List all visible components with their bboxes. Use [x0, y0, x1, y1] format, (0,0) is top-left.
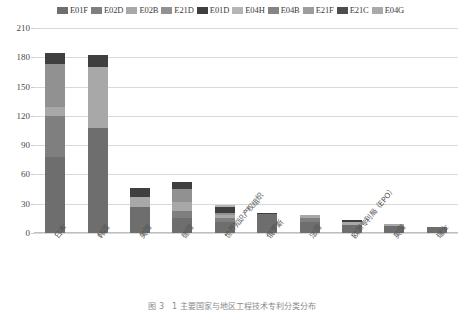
- legend-item-e01f[interactable]: E01F: [57, 6, 88, 15]
- legend-swatch-icon: [372, 7, 383, 14]
- bar-slot: [331, 28, 373, 233]
- x-axis-labels: 日本韩国美国德国世界知识产权组织俄罗斯法国欧洲专利局（EPO）英国瑞士: [34, 233, 458, 295]
- bar-slot: [76, 28, 118, 233]
- y-axis-tick-label: 60: [21, 169, 30, 179]
- legend-label: E01D: [210, 6, 229, 15]
- legend-swatch-icon: [91, 7, 102, 14]
- x-axis-label-slot: 法国: [288, 233, 330, 295]
- legend-swatch-icon: [232, 7, 243, 14]
- x-axis-label-slot: 韩国: [76, 233, 118, 295]
- legend-label: E01F: [70, 6, 88, 15]
- y-axis-tick-label: 30: [21, 199, 30, 209]
- chart-legend: E01FE02DE02BE21DE01DE04HE04BE21FE21CE04G: [0, 6, 464, 15]
- x-axis-label-slot: 日本: [34, 233, 76, 295]
- bar-segment-e02b[interactable]: [130, 197, 150, 207]
- bar-segment-e02d[interactable]: [172, 211, 192, 219]
- bar-stack[interactable]: [88, 55, 108, 233]
- bar-segment-e02b[interactable]: [172, 202, 192, 211]
- bar-segment-e01d[interactable]: [130, 188, 150, 197]
- legend-item-e04g[interactable]: E04G: [372, 6, 404, 15]
- x-axis-label-slot: 俄罗斯: [246, 233, 288, 295]
- bar-segment-e21d[interactable]: [172, 189, 192, 202]
- plot-area: 0306090120150180210: [34, 28, 458, 233]
- bar-slot: [161, 28, 203, 233]
- legend-label: E04B: [281, 6, 300, 15]
- legend-swatch-icon: [197, 7, 208, 14]
- legend-item-e04b[interactable]: E04B: [268, 6, 300, 15]
- bar-segment-e01f[interactable]: [45, 157, 65, 233]
- x-axis-label-slot: 美国: [119, 233, 161, 295]
- bar-slot: [34, 28, 76, 233]
- bar-segment-e02b[interactable]: [45, 107, 65, 116]
- legend-item-e02d[interactable]: E02D: [91, 6, 123, 15]
- y-axis-tick-label: 90: [21, 140, 30, 150]
- legend-swatch-icon: [126, 7, 137, 14]
- y-axis-tick-label: 120: [17, 111, 31, 121]
- y-axis-tick-label: 180: [17, 52, 31, 62]
- bar-stack[interactable]: [45, 53, 65, 233]
- legend-swatch-icon: [268, 7, 279, 14]
- y-axis-tick-label: 210: [17, 23, 31, 33]
- bar-segment-e02d[interactable]: [45, 116, 65, 157]
- bar-segment-e02b[interactable]: [88, 67, 108, 128]
- legend-swatch-icon: [161, 7, 172, 14]
- y-axis-tick-label: 150: [17, 82, 31, 92]
- bar-segment-e21d[interactable]: [45, 64, 65, 107]
- legend-item-e04h[interactable]: E04H: [232, 6, 264, 15]
- legend-item-e21d[interactable]: E21D: [161, 6, 193, 15]
- x-axis-label-slot: 英国: [373, 233, 415, 295]
- bar-slot: [119, 28, 161, 233]
- legend-label: E21C: [350, 6, 369, 15]
- figure-caption: 图 3 1 主要国家与地区工程技术专利分类分布: [0, 300, 464, 311]
- legend-item-e01d[interactable]: E01D: [197, 6, 229, 15]
- bar-segment-e01d[interactable]: [172, 182, 192, 189]
- bar-segment-e01d[interactable]: [45, 53, 65, 64]
- legend-label: E04H: [245, 6, 264, 15]
- bar-slot: [288, 28, 330, 233]
- legend-label: E21D: [174, 6, 193, 15]
- y-axis-tick-label: 0: [26, 228, 31, 238]
- legend-label: E02D: [104, 6, 123, 15]
- legend-swatch-icon: [337, 7, 348, 14]
- x-axis-label-slot: 世界知识产权组织: [204, 233, 246, 295]
- x-axis-label-slot: 欧洲专利局（EPO）: [331, 233, 373, 295]
- legend-item-e21f[interactable]: E21F: [303, 6, 334, 15]
- x-axis-label-slot: 德国: [161, 233, 203, 295]
- legend-swatch-icon: [303, 7, 314, 14]
- legend-label: E02B: [139, 6, 158, 15]
- bar-slot: [204, 28, 246, 233]
- legend-swatch-icon: [57, 7, 68, 14]
- stacked-bar-chart: E01FE02DE02BE21DE01DE04HE04BE21FE21CE04G…: [0, 0, 464, 312]
- legend-label: E04G: [385, 6, 404, 15]
- legend-label: E21F: [316, 6, 334, 15]
- bar-series-container: [34, 28, 458, 233]
- bar-slot: [416, 28, 458, 233]
- legend-item-e02b[interactable]: E02B: [126, 6, 158, 15]
- legend-item-e21c[interactable]: E21C: [337, 6, 369, 15]
- x-axis-label-slot: 瑞士: [416, 233, 458, 295]
- bar-segment-e01d[interactable]: [88, 55, 108, 67]
- bar-segment-e01f[interactable]: [88, 128, 108, 233]
